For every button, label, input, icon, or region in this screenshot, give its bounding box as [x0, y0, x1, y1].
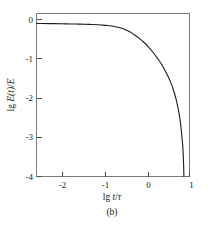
plot-area-background [36, 13, 190, 177]
y-axis-title-paren: (t) [6, 87, 17, 96]
x-axis-title-var2: τ [118, 192, 122, 202]
y-tick-label: -3 [26, 132, 34, 142]
y-axis-title-var2: E [6, 78, 16, 85]
x-tick-labels: -2 -1 0 1 [59, 180, 194, 190]
figure-container: -2 -1 0 1 0 -1 -2 -3 -4 lg E(t)/E lg t/τ… [0, 0, 224, 226]
y-tick-label: -4 [26, 172, 34, 182]
y-tick-label: 0 [29, 15, 34, 25]
figure-caption: (b) [106, 207, 117, 218]
x-tick-label: -2 [59, 180, 67, 190]
y-axis-title: lg E(t)/E [6, 78, 17, 111]
y-tick-label: -2 [26, 93, 34, 103]
y-tick-labels: 0 -1 -2 -3 -4 [26, 15, 34, 182]
x-tick-label: 0 [146, 180, 151, 190]
x-tick-label: -1 [102, 180, 110, 190]
y-axis-title-prefix: lg [6, 102, 16, 112]
x-axis-title-prefix: lg [103, 192, 113, 202]
x-tick-label: 1 [189, 180, 194, 190]
chart-plot: -2 -1 0 1 0 -1 -2 -3 -4 lg E(t)/E lg t/τ… [0, 0, 224, 226]
y-tick-label: -1 [26, 54, 34, 64]
x-axis-title: lg t/τ [103, 192, 122, 202]
